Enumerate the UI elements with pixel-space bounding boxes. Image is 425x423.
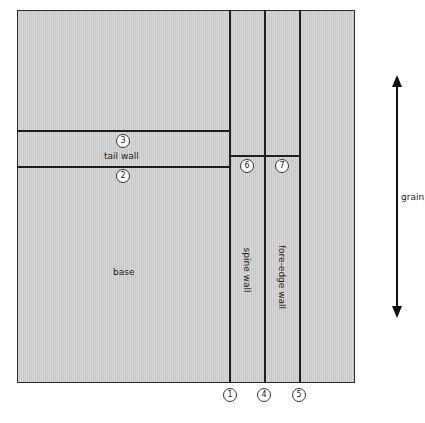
cut-line-4 [264, 10, 266, 383]
marker-6: 6 [240, 159, 254, 173]
cut-line-3 [17, 130, 229, 132]
arrow-down-icon [392, 306, 402, 318]
fore-edge-wall-label: fore-edge wall [277, 242, 287, 312]
grain-arrow [396, 86, 398, 306]
spine-wall-label: spine wall [242, 245, 252, 295]
cut-line-1 [229, 10, 231, 383]
board-sheet [17, 10, 355, 383]
base-label: base [113, 267, 134, 277]
marker-4: 4 [257, 388, 271, 402]
cut-line-5 [299, 10, 301, 383]
marker-3: 3 [116, 134, 130, 148]
cut-line-2 [17, 166, 229, 168]
marker-2: 2 [116, 169, 130, 183]
grain-label: grain [401, 192, 424, 202]
tail-wall-label: tail wall [104, 151, 139, 161]
marker-5: 5 [292, 388, 306, 402]
marker-1: 1 [223, 388, 237, 402]
marker-7: 7 [275, 159, 289, 173]
